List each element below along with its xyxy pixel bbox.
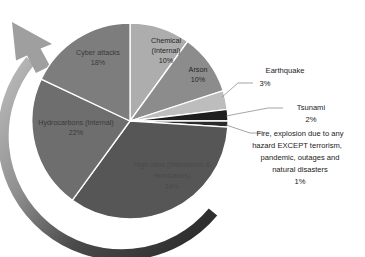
- callout-label-tsunami: Tsunami 2%: [297, 103, 326, 124]
- slice-label-arson-percent: 10%: [191, 75, 206, 84]
- slice-label-cyber-line1: Cyber attacks: [76, 48, 120, 57]
- leader-line-tsunami: [226, 108, 283, 116]
- slice-label-chemical-line2: (Internal): [152, 46, 181, 55]
- slice-label-high-wind-percent: 34%: [165, 182, 180, 191]
- callout-fire-line2: hazard EXCEPT terrorism,: [252, 141, 342, 150]
- callout-earthquake-line1: Earthquake: [266, 66, 305, 75]
- pie-chart-figure: Chemical (Internal) 10% Arson 10% Cyber …: [0, 0, 365, 257]
- callout-fire-line4: natural disasters: [272, 165, 328, 174]
- pie-callout-leaders: [222, 83, 283, 133]
- slice-label-hydrocarbons-percent: 22%: [69, 128, 84, 137]
- pie-chart-svg: Chemical (Internal) 10% Arson 10% Cyber …: [0, 0, 365, 257]
- slice-label-chemical-line1: Chemical: [151, 36, 181, 45]
- callout-tsunami-percent: 2%: [306, 115, 317, 124]
- callout-label-fire-explosion: Fire, explosion due to any hazard EXCEPT…: [252, 129, 344, 186]
- slice-label-hydrocarbons-line1: Hydrocarbons (Internal): [38, 118, 114, 127]
- callout-fire-line3: pandemic, outages and: [261, 153, 340, 162]
- leader-line-earthquake: [222, 83, 253, 97]
- callout-fire-line1: Fire, explosion due to any: [257, 129, 344, 138]
- callout-fire-percent: 1%: [295, 177, 306, 186]
- callout-tsunami-line1: Tsunami: [297, 103, 326, 112]
- slice-label-chemical-percent: 10%: [159, 56, 174, 65]
- slice-label-cyber-percent: 18%: [91, 58, 106, 67]
- slice-label-arson-line1: Arson: [189, 65, 208, 74]
- slice-label-arson: Arson 10%: [189, 65, 208, 84]
- callout-earthquake-percent: 3%: [260, 79, 271, 88]
- slice-label-high-wind-line2: Hurricanes): [153, 171, 190, 180]
- callout-label-earthquake: Earthquake 3%: [260, 66, 305, 88]
- slice-label-high-wind-line1: High wind (Windstorm &: [133, 160, 210, 169]
- pie-callout-labels: Earthquake 3% Tsunami 2% Fire, explosion…: [252, 66, 344, 186]
